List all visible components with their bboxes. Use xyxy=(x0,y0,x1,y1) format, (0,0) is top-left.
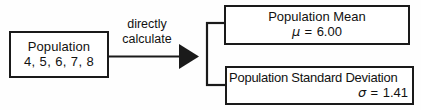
population-box: Population 4, 5, 6, 7, 8 xyxy=(9,31,109,78)
sd-equals-sign: = xyxy=(366,85,382,100)
flow-diagram: Population 4, 5, 6, 7, 8 directly calcul… xyxy=(0,0,421,110)
population-sd-box: Population Standard Deviation σ = 1.41 xyxy=(225,66,414,105)
population-sd-title: Population Standard Deviation xyxy=(229,71,410,86)
population-mean-value: μ = 6.00 xyxy=(292,25,342,40)
population-values: 4, 5, 6, 7, 8 xyxy=(24,55,94,70)
sd-value-number: 1.41 xyxy=(383,85,408,100)
mean-value-number: 6.00 xyxy=(317,24,342,39)
population-sd-value: σ = 1.41 xyxy=(229,86,410,101)
arrow-label-line2: calculate xyxy=(110,32,184,47)
population-label: Population xyxy=(28,40,90,55)
arrowhead xyxy=(179,44,199,69)
mean-equals-sign: = xyxy=(300,24,316,39)
arrow-label: directly calculate xyxy=(110,17,184,47)
population-mean-title: Population Mean xyxy=(268,10,366,25)
population-mean-box: Population Mean μ = 6.00 xyxy=(224,5,410,45)
arrow-label-line1: directly xyxy=(110,17,184,32)
